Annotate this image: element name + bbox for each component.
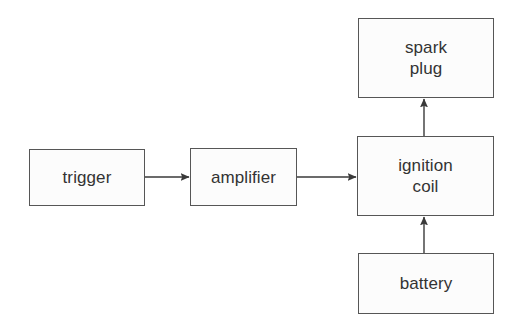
node-spark-plug-label: spark plug <box>405 37 447 79</box>
diagram-canvas: trigger amplifier ignition coil spark pl… <box>0 0 519 330</box>
node-amplifier[interactable]: amplifier <box>190 148 297 206</box>
node-battery[interactable]: battery <box>358 253 494 314</box>
node-spark-plug[interactable]: spark plug <box>358 18 494 98</box>
node-ignition-coil-label: ignition coil <box>398 155 453 197</box>
node-amplifier-label: amplifier <box>211 167 276 188</box>
node-ignition-coil[interactable]: ignition coil <box>357 136 494 216</box>
node-trigger[interactable]: trigger <box>29 149 145 206</box>
node-battery-label: battery <box>400 273 453 294</box>
node-trigger-label: trigger <box>63 167 112 188</box>
